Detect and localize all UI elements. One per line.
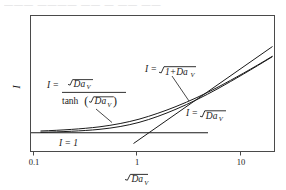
y-axis-title: I — [11, 85, 22, 90]
x-axis-ticks — [34, 152, 241, 156]
x-axis-title: Da V — [125, 174, 149, 185]
annotation-sqrt1plus-formula: I = 1+Da V — [144, 64, 196, 78]
sqrtda-lhs: I = — [185, 108, 198, 118]
x-axis-title-radicand: Da — [131, 174, 144, 184]
coth-denominator-lparen: ( — [84, 94, 88, 108]
sqrtda-subscript: V — [219, 115, 224, 122]
annotation-unity-label: I = 1 — [58, 138, 78, 148]
sqrt1plus-radicand: 1+Da — [165, 67, 188, 77]
leader-line-coth — [96, 109, 112, 123]
x-tick-label-2: 10 — [237, 157, 246, 167]
figure-canvas: 0.1 1 10 Da V I I = Da V tanh ( Da V ) I… — [0, 0, 286, 190]
leader-lines — [96, 76, 189, 123]
sqrtda-radicand: Da — [205, 111, 218, 121]
coth-denominator-rparen: ) — [113, 94, 117, 108]
coth-lhs: I = — [46, 80, 59, 90]
y-axis-title-text: I — [11, 85, 22, 90]
data-curves — [31, 47, 273, 144]
coth-denominator-radicand: Da — [94, 96, 107, 106]
unity-label-text: I = 1 — [58, 138, 78, 148]
x-axis-title-subscript: V — [144, 179, 149, 186]
sqrt1plus-subscript: V — [191, 71, 196, 78]
annotation-sqrtda-formula: I = Da V — [185, 108, 226, 122]
x-axis-tick-labels: 0.1 1 10 — [29, 157, 246, 167]
coth-numerator-radicand: Da — [73, 79, 86, 89]
annotation-coth-formula: I = Da V tanh ( Da V ) — [46, 79, 126, 108]
x-tick-label-0: 0.1 — [29, 157, 40, 167]
leader-line-sqrt1plus — [172, 76, 189, 101]
coth-denominator-func: tanh — [62, 96, 79, 106]
coth-numerator-subscript: V — [86, 83, 91, 90]
sqrt1plus-lhs: I = — [144, 64, 157, 74]
coth-denominator-subscript: V — [107, 101, 112, 108]
x-tick-label-1: 1 — [135, 157, 139, 167]
